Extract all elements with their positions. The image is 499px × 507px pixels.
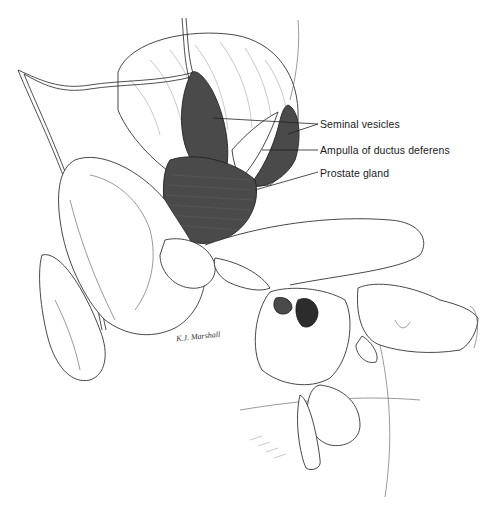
label-prostate-gland: Prostate gland xyxy=(320,167,389,179)
leader-seminal-vesicles-b xyxy=(288,124,318,134)
leader-lines xyxy=(0,0,499,507)
label-ampulla: Ampulla of ductus deferens xyxy=(320,144,450,156)
label-seminal-vesicles: Seminal vesicles xyxy=(320,118,400,130)
anatomical-figure: Seminal vesicles Ampulla of ductus defer… xyxy=(0,0,499,507)
leader-seminal-vesicles-a xyxy=(213,118,318,124)
leader-prostate xyxy=(255,172,318,190)
